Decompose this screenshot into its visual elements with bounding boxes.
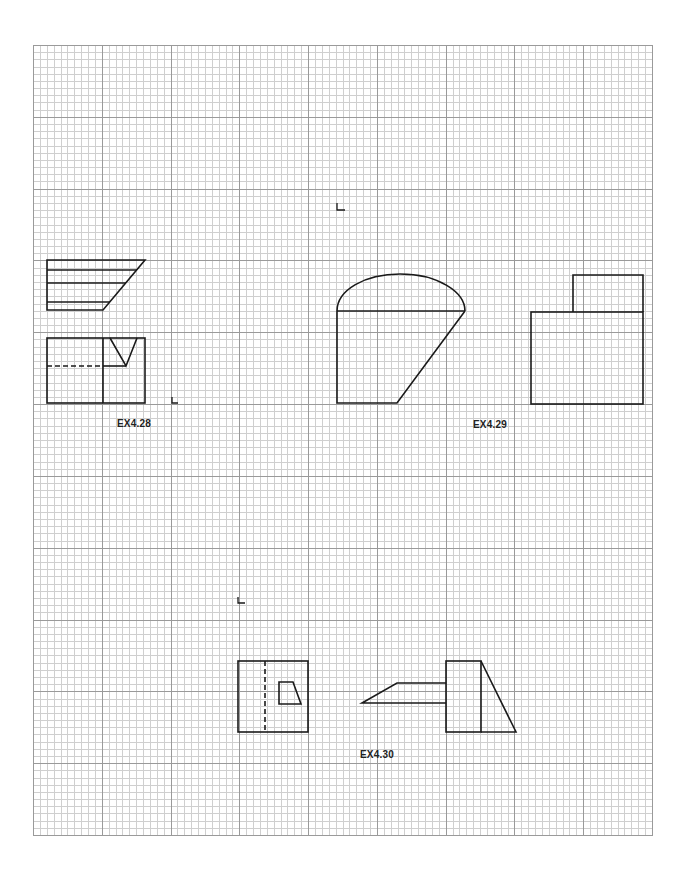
exercise-4-28-drawing <box>47 260 178 403</box>
exercise-label-4-28: EX4.28 <box>117 418 151 429</box>
exercise-label-4-30: EX4.30 <box>360 749 394 760</box>
grid-minor-lines <box>33 45 652 835</box>
ex4-30-left-view <box>238 661 308 732</box>
graph-paper-sheet <box>0 0 686 869</box>
exercise-label-4-29: EX4.29 <box>473 419 507 430</box>
